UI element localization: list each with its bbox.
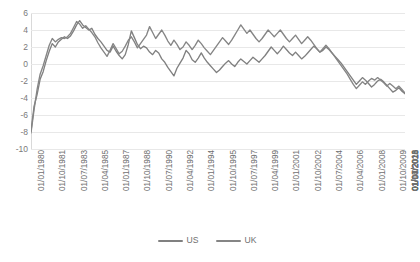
x-axis-tick-label: 01/10/1981: [55, 150, 64, 191]
x-axis-tick-label: 01/01/1987: [119, 150, 128, 191]
x-axis-tick-text: 01/07/1990: [165, 150, 174, 191]
x-axis-tick-text: 01/01/2001: [292, 150, 301, 191]
y-axis-tick-label: 0: [2, 60, 28, 68]
x-axis-tick-text: 01/07/2004: [335, 150, 344, 191]
x-axis-tick-text: 01/10/1981: [58, 150, 67, 191]
x-axis-tick-label: 01/01/1980: [34, 150, 43, 191]
x-axis-tick-text: 01/10/1988: [143, 150, 152, 191]
legend-swatch-icon: [216, 240, 241, 242]
x-axis-tick-label: 01/04/1999: [268, 150, 277, 191]
x-axis-tick-text: 01/04/1992: [186, 150, 195, 191]
x-axis-tick-text: 01/10/1995: [229, 150, 238, 191]
legend-item-uk[interactable]: UK: [216, 236, 257, 245]
series-line-uk: [31, 22, 405, 133]
x-axis-tick-text: 01/04/1999: [271, 150, 280, 191]
legend-label: US: [187, 236, 199, 245]
x-axis-tick-label: 01/07/1990: [162, 150, 171, 191]
y-axis-tick-label: -8: [2, 128, 28, 136]
x-axis-tick-label: 01/04/1985: [98, 150, 107, 191]
x-axis-tick-label: 01/04/2020: [408, 150, 417, 191]
x-axis-tick-label: 01/01/2001: [289, 150, 298, 191]
x-axis-tick-text: 01/10/2009: [399, 150, 408, 191]
legend-swatch-icon: [158, 240, 183, 242]
y-axis-tick-label: -10: [2, 145, 28, 153]
y-axis-tick-label: -4: [2, 94, 28, 102]
x-axis-tick-text: 01/01/2008: [378, 150, 387, 191]
x-axis-tick-label: 01/10/1988: [140, 150, 149, 191]
x-axis-tick-text: 01/04/2006: [356, 150, 365, 191]
x-axis-tick-label: 01/04/2006: [353, 150, 362, 191]
x-axis-tick-text: 01/01/1987: [122, 150, 131, 191]
x-axis-tick-label: 01/01/1994: [204, 150, 213, 191]
plot-area: [31, 13, 405, 149]
y-axis-tick-label: 6: [2, 9, 28, 17]
legend-label: UK: [245, 236, 257, 245]
y-axis-tick-label: -2: [2, 77, 28, 85]
y-axis: 6420-2-4-6-8-10: [0, 13, 28, 149]
x-axis-tick-text: 01/04/1985: [101, 150, 110, 191]
chart-legend: USUK: [0, 236, 414, 245]
y-axis-tick-label: -6: [2, 111, 28, 119]
x-axis-tick-label: 01/10/2009: [396, 150, 405, 191]
x-axis-tick-label: 01/07/1997: [247, 150, 256, 191]
x-axis-tick-label: 01/01/2008: [375, 150, 384, 191]
x-axis-tick-text: 01/10/2002: [314, 150, 323, 191]
x-axis-tick-label: 01/07/1983: [77, 150, 86, 191]
x-axis-tick-label: 01/04/1992: [183, 150, 192, 191]
y-axis-tick-label: 4: [2, 26, 28, 34]
x-axis-tick-text: 01/01/1994: [207, 150, 216, 191]
x-axis-tick-text: 01/07/1997: [250, 150, 259, 191]
x-axis-tick-label: 01/07/2004: [332, 150, 341, 191]
legend-item-us[interactable]: US: [158, 236, 199, 245]
y-axis-tick-label: 2: [2, 43, 28, 51]
x-axis-tick-label: 01/10/2002: [311, 150, 320, 191]
series-paths: [31, 13, 405, 149]
x-axis-tick-label: 01/10/1995: [226, 150, 235, 191]
x-axis-tick-text: 01/04/2020: [411, 150, 420, 191]
x-axis-tick-text: 01/01/1980: [37, 150, 46, 191]
x-axis-tick-text: 01/07/1983: [80, 150, 89, 191]
x-axis: 01/01/198001/10/198101/07/198301/04/1985…: [31, 150, 405, 228]
